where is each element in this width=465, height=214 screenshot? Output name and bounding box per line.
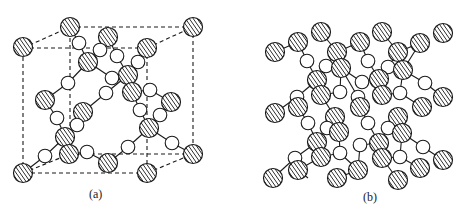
hatched-atom	[411, 34, 430, 53]
hatched-atom	[289, 33, 308, 52]
hatched-atom	[389, 171, 408, 190]
hatched-atom	[184, 145, 203, 164]
open-atom	[301, 116, 315, 130]
hatched-atom	[14, 38, 33, 57]
hatched-atom	[434, 88, 453, 107]
open-atom	[110, 49, 124, 63]
open-atom	[416, 140, 430, 154]
crystal-structure-figure	[0, 0, 465, 214]
open-atom	[333, 146, 347, 160]
open-atom	[361, 116, 375, 130]
hatched-atom	[312, 148, 331, 167]
open-atom	[70, 118, 84, 132]
open-atom	[105, 71, 119, 85]
hatched-atom	[413, 98, 432, 117]
hatched-atom	[373, 149, 392, 168]
open-atom	[300, 54, 314, 68]
open-atom	[393, 150, 407, 164]
hatched-atom	[138, 39, 157, 58]
hatched-atom	[393, 124, 412, 143]
hatched-atom	[349, 161, 368, 180]
hatched-atom	[394, 61, 413, 80]
open-atom	[72, 36, 86, 50]
atoms-panel-a	[14, 18, 203, 183]
hatched-atom	[373, 23, 392, 42]
hatched-atom	[312, 23, 331, 42]
hatched-atom	[351, 33, 370, 52]
hatched-atom	[411, 159, 430, 178]
open-atom	[143, 83, 157, 97]
hatched-atom	[56, 128, 75, 147]
hatched-atom	[162, 93, 181, 112]
hatched-atom	[332, 59, 351, 78]
hatched-atom	[61, 18, 80, 37]
hatched-atom	[289, 98, 308, 117]
open-atom	[333, 85, 347, 99]
open-atom	[80, 145, 94, 159]
open-atom	[61, 76, 75, 90]
hatched-atom	[434, 151, 453, 170]
open-atom	[153, 108, 167, 122]
open-atom	[319, 59, 333, 73]
hatched-atom	[264, 169, 283, 188]
hatched-atom	[79, 53, 98, 72]
open-atom	[165, 136, 179, 150]
hatched-atom	[351, 98, 370, 117]
hatched-atom	[266, 43, 285, 62]
hatched-atom	[14, 164, 33, 183]
hatched-atom	[123, 83, 142, 102]
hatched-atom	[330, 123, 349, 142]
open-atom	[99, 86, 113, 100]
hatched-atom	[266, 104, 285, 123]
open-atom	[121, 140, 135, 154]
hatched-atom	[119, 66, 138, 85]
open-atom	[353, 138, 367, 152]
hatched-atom	[184, 18, 203, 37]
panel-label-a: (a)	[89, 187, 102, 202]
open-atom	[361, 54, 375, 68]
hatched-atom	[389, 43, 408, 62]
hatched-atom	[60, 145, 79, 164]
hatched-atom	[312, 86, 331, 105]
hatched-atom	[289, 161, 308, 180]
panel-label-b: (b)	[363, 190, 377, 205]
open-atom	[38, 149, 52, 163]
hatched-atom	[138, 164, 157, 183]
open-atom	[50, 111, 64, 125]
open-atom	[93, 43, 107, 57]
hatched-atom	[373, 86, 392, 105]
hatched-atom	[328, 169, 347, 188]
open-atom	[133, 103, 147, 117]
open-atom	[418, 76, 432, 90]
atoms-panel-b	[264, 23, 453, 190]
open-atom	[355, 75, 369, 89]
hatched-atom	[99, 154, 118, 173]
hatched-atom	[140, 119, 159, 138]
hatched-atom	[36, 91, 55, 110]
hatched-atom	[434, 24, 453, 43]
open-atom	[393, 86, 407, 100]
